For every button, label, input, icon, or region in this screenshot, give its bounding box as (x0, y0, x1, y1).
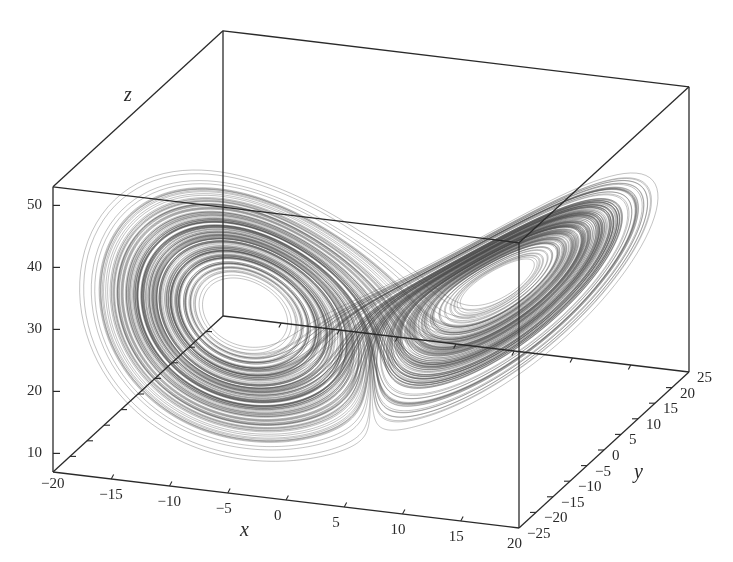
z-tick-label: 20 (27, 383, 42, 398)
x-tick (403, 510, 405, 515)
x-tick-label: 20 (507, 536, 522, 551)
box-edge (223, 31, 689, 87)
x-tick (228, 489, 230, 494)
lorenz-attractor-figure: 1020304050−20−15−10−505101520−25−20−15−1… (0, 0, 733, 562)
x-tick (454, 344, 456, 349)
x-tick-label: 5 (332, 515, 340, 530)
x-tick (395, 337, 397, 342)
x-tick-label: 0 (274, 508, 282, 523)
x-tick (628, 365, 630, 370)
y-tick-label: −20 (544, 510, 567, 525)
x-tick-label: −5 (216, 501, 232, 516)
x-tick (512, 351, 514, 356)
x-tick (461, 517, 463, 522)
x-axis-label: x (240, 519, 249, 539)
x-tick (286, 496, 288, 501)
x-tick (337, 330, 339, 335)
x-tick (570, 358, 572, 363)
x-tick-label: −15 (99, 487, 122, 502)
box-edge (53, 187, 519, 243)
z-tick-label: 10 (27, 445, 42, 460)
x-tick (111, 475, 113, 480)
axes-box (0, 0, 733, 562)
z-tick-label: 30 (27, 321, 42, 336)
box-edge (53, 31, 223, 187)
y-tick-label: 10 (646, 417, 661, 432)
x-tick (279, 323, 281, 328)
box-edge (519, 87, 689, 243)
x-tick-label: 15 (449, 529, 464, 544)
y-tick-label: 20 (680, 386, 695, 401)
y-tick-label: 15 (663, 401, 678, 416)
y-tick-label: −10 (578, 479, 601, 494)
z-tick-label: 50 (27, 197, 42, 212)
x-tick-label: 10 (391, 522, 406, 537)
x-tick (344, 503, 346, 508)
y-tick-label: −25 (527, 526, 550, 541)
y-tick-label: −15 (561, 495, 584, 510)
x-tick (170, 482, 172, 487)
y-axis-label: y (634, 461, 643, 481)
x-tick-label: −10 (158, 494, 181, 509)
y-tick-label: −5 (595, 464, 611, 479)
x-tick-label: −20 (41, 476, 64, 491)
y-tick-label: 0 (612, 448, 620, 463)
y-tick-label: 5 (629, 432, 637, 447)
y-tick-label: 25 (697, 370, 712, 385)
z-axis-label: z (124, 84, 132, 104)
z-tick-label: 40 (27, 259, 42, 274)
